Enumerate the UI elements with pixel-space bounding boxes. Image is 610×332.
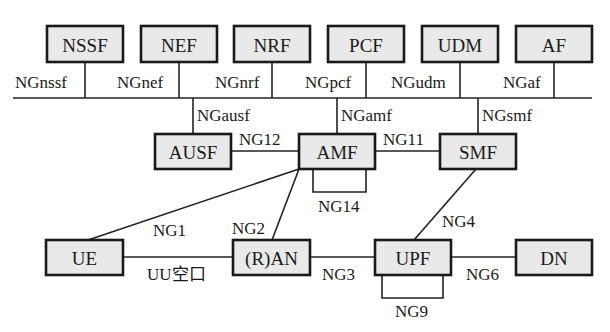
ng11-label: NG11	[383, 130, 424, 149]
ausf-label: AUSF	[169, 142, 218, 163]
ng3-label: NG3	[322, 265, 355, 284]
dn-node: DN	[516, 240, 592, 275]
ng2-label: NG2	[232, 219, 265, 238]
ngaf-label: NGaf	[503, 73, 541, 92]
upf-label: UPF	[396, 248, 431, 269]
ue-amf-link	[88, 169, 299, 240]
ng4-label: NG4	[442, 212, 476, 231]
5g-architecture-diagram: NGnssf NGnef NGnrf NGpcf NGudm NGaf NGau…	[0, 0, 610, 332]
ausf-node: AUSF	[155, 134, 231, 169]
ran-label: (R)AN	[245, 248, 298, 270]
ran-amf-link	[272, 169, 299, 240]
udm-label: UDM	[438, 35, 482, 56]
diagram-canvas: NGnssf NGnef NGnrf NGpcf NGudm NGaf NGau…	[0, 0, 610, 332]
smf-label: SMF	[459, 142, 497, 163]
ngsmf-label: NGsmf	[482, 106, 532, 125]
ng12-label: NG12	[239, 130, 281, 149]
ngnssf-label: NGnssf	[15, 73, 67, 92]
nef-label: NEF	[161, 35, 197, 56]
pcf-node: PCF	[328, 26, 404, 62]
nssf-node: NSSF	[47, 26, 123, 62]
ue-label: UE	[72, 248, 97, 269]
ng14-loop	[313, 169, 366, 192]
uu-air-interface-label: UU空口	[147, 265, 206, 284]
af-node: AF	[516, 26, 592, 62]
udm-node: UDM	[422, 26, 498, 62]
ngausf-label: NGausf	[197, 106, 250, 125]
upf-node: UPF	[375, 240, 451, 275]
ngamf-label: NGamf	[341, 106, 392, 125]
ng9-loop	[382, 275, 443, 298]
dn-label: DN	[540, 248, 568, 269]
ngudm-label: NGudm	[391, 73, 446, 92]
network-function-boxes: NSSFNEFNRFPCFUDMAFAUSFAMFSMFUE(R)ANUPFDN	[46, 26, 592, 275]
ue-node: UE	[46, 240, 123, 275]
amf-label: AMF	[316, 142, 357, 163]
ngpcf-label: NGpcf	[305, 73, 352, 92]
pcf-label: PCF	[349, 35, 383, 56]
ng6-label: NG6	[466, 265, 499, 284]
ng1-label: NG1	[153, 221, 186, 240]
nrf-label: NRF	[254, 35, 291, 56]
ng14-label: NG14	[318, 197, 360, 216]
smf-node: SMF	[440, 134, 516, 169]
ngnef-label: NGnef	[117, 73, 164, 92]
nssf-label: NSSF	[62, 35, 107, 56]
amf-node: AMF	[299, 134, 375, 169]
ng9-label: NG9	[395, 302, 428, 321]
nrf-node: NRF	[234, 26, 310, 62]
nef-node: NEF	[141, 26, 217, 62]
ran-node: (R)AN	[233, 240, 310, 275]
af-label: AF	[542, 35, 566, 56]
ngnrf-label: NGnrf	[215, 73, 260, 92]
